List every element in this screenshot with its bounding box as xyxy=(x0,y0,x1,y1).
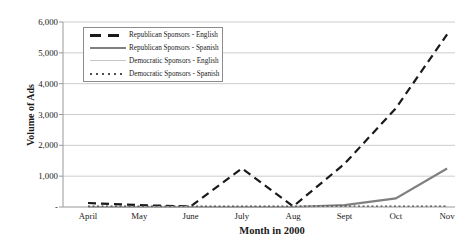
plot-canvas xyxy=(0,0,474,242)
x-tick-label: Oct xyxy=(374,211,418,221)
y-tick-label: 4,000 xyxy=(16,79,58,89)
legend-line-sample-dotted xyxy=(90,73,126,75)
y-tick-label: 6,000 xyxy=(16,17,58,27)
legend-entry: Republican Sponsors - English xyxy=(90,31,220,39)
x-tick-label: Nov xyxy=(425,211,469,221)
legend-line-sample-dashed xyxy=(90,34,126,37)
legend-label: Democratic Sponsors - English xyxy=(129,57,219,65)
legend-entry: Republican Sponsors - Spanish xyxy=(90,44,220,52)
legend-entry: Democratic Sponsors - English xyxy=(90,57,220,65)
y-tick-label: 2,000 xyxy=(16,140,58,150)
y-axis-title: Volume of Ads xyxy=(25,84,36,146)
legend-label: Republican Sponsors - English xyxy=(129,31,218,39)
x-tick-label: May xyxy=(117,211,161,221)
legend-line-sample-solid xyxy=(90,60,126,61)
x-axis-title: Month in 2000 xyxy=(239,225,304,236)
x-tick-label: June xyxy=(169,211,213,221)
x-tick-label: April xyxy=(66,211,110,221)
legend-entry: Democratic Sponsors - Spanish xyxy=(90,70,220,78)
x-tick-label: July xyxy=(220,211,264,221)
y-tick-label: 3,000 xyxy=(16,110,58,120)
legend: Republican Sponsors - EnglishRepublican … xyxy=(83,27,223,82)
legend-line-sample-solid xyxy=(90,47,126,49)
legend-label: Democratic Sponsors - Spanish xyxy=(129,70,219,78)
x-tick-label: Sept xyxy=(323,211,367,221)
x-tick-label: Aug xyxy=(271,211,315,221)
ad-volume-line-chart: 6,0005,0004,0003,0002,0001,000- AprilMay… xyxy=(0,0,474,242)
legend-label: Republican Sponsors - Spanish xyxy=(129,44,219,52)
y-tick-label: 5,000 xyxy=(16,48,58,58)
y-tick-label: - xyxy=(16,202,58,212)
y-tick-label: 1,000 xyxy=(16,171,58,181)
